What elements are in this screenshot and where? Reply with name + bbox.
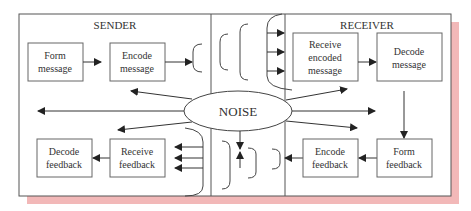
receiver-heading: RECEIVER — [340, 19, 394, 31]
svg-text:message: message — [392, 59, 426, 70]
svg-text:feedback: feedback — [119, 159, 155, 170]
svg-text:Form: Form — [393, 146, 415, 157]
encode-feedback-box: Encode feedback — [303, 139, 358, 177]
communication-model-diagram: SENDER RECEIVER Form message Encode mess… — [0, 0, 471, 211]
noise-label: NOISE — [219, 104, 257, 119]
svg-text:encoded: encoded — [308, 52, 341, 63]
form-feedback-box: Form feedback — [377, 139, 432, 177]
svg-text:Receive: Receive — [309, 39, 342, 50]
svg-text:feedback: feedback — [312, 159, 348, 170]
svg-text:feedback: feedback — [46, 159, 82, 170]
decode-message-box: Decode message — [377, 33, 442, 81]
svg-text:message: message — [120, 63, 154, 74]
receive-feedback-box: Receive feedback — [110, 139, 165, 177]
form-message-box: Form message — [28, 43, 83, 81]
svg-text:message: message — [38, 63, 72, 74]
svg-text:message: message — [308, 65, 342, 76]
svg-text:Form: Form — [44, 50, 66, 61]
decode-feedback-box: Decode feedback — [37, 139, 92, 177]
svg-text:Decode: Decode — [394, 46, 425, 57]
svg-text:Receive: Receive — [121, 146, 154, 157]
encode-message-box: Encode message — [110, 43, 165, 81]
svg-text:Encode: Encode — [315, 146, 346, 157]
svg-text:Encode: Encode — [122, 50, 153, 61]
svg-text:feedback: feedback — [386, 159, 422, 170]
sender-heading: SENDER — [94, 19, 137, 31]
svg-text:Decode: Decode — [49, 146, 80, 157]
receive-encoded-message-box: Receive encoded message — [293, 33, 358, 81]
